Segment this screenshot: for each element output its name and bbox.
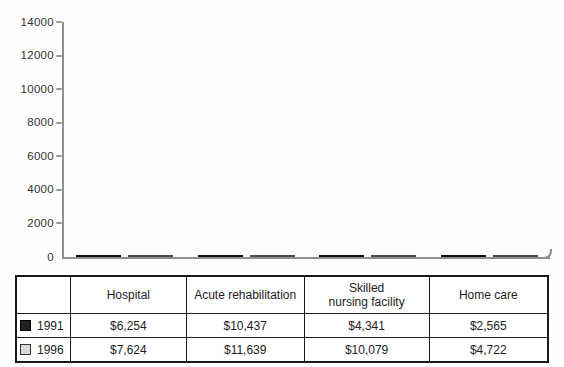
bar-1996-home-care (493, 255, 538, 257)
value-1991-acute-rehabilitation: $10,437 (186, 314, 304, 338)
bar-1991-skilled-nursing-facility (319, 255, 364, 257)
column-header-hospital: Hospital (70, 276, 186, 314)
y-axis-label-6000: 6000 (4, 149, 54, 164)
bar-1996-skilled-nursing-facility (371, 255, 416, 257)
bar-1991-home-care (441, 255, 486, 257)
baseline-end-curl (542, 249, 552, 259)
value-1996-acute-rehabilitation: $11,639 (186, 338, 304, 363)
y-axis-label-12000: 12000 (4, 48, 54, 63)
value-1996-hospital: $7,624 (70, 338, 186, 363)
data-table: HospitalAcute rehabilitationSkilled nurs… (15, 275, 549, 363)
bar-groups (64, 22, 550, 257)
legend-cell-1996: 1996 (16, 338, 70, 363)
y-axis-label-8000: 8000 (4, 115, 54, 130)
cost-comparison-figure: 02000400060008000100001200014000 Hospita… (0, 0, 564, 367)
value-1991-hospital: $6,254 (70, 314, 186, 338)
y-axis-label-14000: 14000 (4, 15, 54, 30)
bar-group-hospital (64, 255, 186, 257)
legend-year-label-1991: 1991 (37, 319, 64, 333)
value-1996-skilled-nursing-facility: $10,079 (304, 338, 429, 363)
y-axis-label-0: 0 (4, 250, 54, 265)
legend-cell-1991: 1991 (16, 314, 70, 338)
grouped-bar-chart: 02000400060008000100001200014000 (0, 0, 564, 270)
column-header-home-care: Home care (429, 276, 548, 314)
legend-year-label-1996: 1996 (37, 343, 64, 357)
value-1996-home-care: $4,722 (429, 338, 548, 363)
y-axis-label-4000: 4000 (4, 182, 54, 197)
bar-1996-acute-rehabilitation (250, 255, 295, 257)
bar-group-skilled-nursing-facility (307, 255, 429, 257)
table-header-row: HospitalAcute rehabilitationSkilled nurs… (16, 276, 548, 314)
value-1991-skilled-nursing-facility: $4,341 (304, 314, 429, 338)
column-header-acute-rehabilitation: Acute rehabilitation (186, 276, 304, 314)
bar-1991-hospital (76, 255, 121, 257)
bar-1996-hospital (128, 255, 173, 257)
legend-swatch-1991 (20, 320, 31, 331)
plot-area (62, 22, 550, 259)
y-axis-label-10000: 10000 (4, 82, 54, 97)
column-header-legend (16, 276, 70, 314)
value-1991-home-care: $2,565 (429, 314, 548, 338)
bar-group-home-care (429, 255, 551, 257)
bar-1991-acute-rehabilitation (198, 255, 243, 257)
table-row-1991: 1991$6,254$10,437$4,341$2,565 (16, 314, 548, 338)
bar-group-acute-rehabilitation (186, 255, 308, 257)
y-axis-label-2000: 2000 (4, 216, 54, 231)
column-header-skilled-nursing-facility: Skilled nursing facility (304, 276, 429, 314)
table-row-1996: 1996$7,624$11,639$10,079$4,722 (16, 338, 548, 363)
legend-swatch-1996 (20, 344, 31, 355)
